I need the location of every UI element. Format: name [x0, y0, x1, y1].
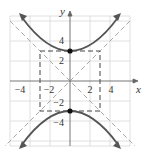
vertex-upper	[67, 48, 72, 53]
y-tick-neg4: −4	[53, 117, 64, 128]
vertex-lower	[67, 108, 72, 113]
y-tick-2: 2	[59, 55, 64, 66]
y-axis-label: y	[59, 5, 65, 17]
origin-point	[69, 80, 71, 82]
x-tick-neg2: −2	[44, 84, 55, 95]
x-tick-neg4: −4	[15, 84, 26, 95]
axes	[10, 11, 138, 146]
hyperbola-graph: −4 −2 2 4 4 2 −2 −4 x y	[0, 0, 147, 153]
y-tick-neg2: −2	[53, 97, 64, 108]
x-axis-label: x	[135, 83, 141, 95]
x-tick-4: 4	[109, 84, 114, 95]
y-tick-4: 4	[59, 35, 64, 46]
x-tick-2: 2	[88, 84, 93, 95]
